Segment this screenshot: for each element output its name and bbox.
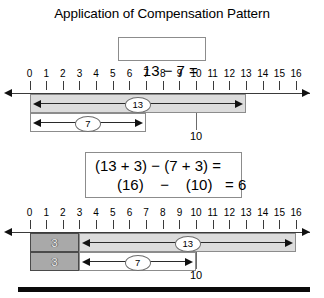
tick-label: 3 — [70, 207, 88, 218]
tick-mark — [96, 81, 97, 90]
tick-label: 14 — [254, 68, 272, 79]
block-value-label: 3 — [31, 253, 79, 270]
tick-mark — [129, 220, 130, 229]
tick-label: 9 — [170, 207, 188, 218]
tick-label: 8 — [154, 207, 172, 218]
tick-mark — [30, 81, 31, 90]
span-value-label: 13 — [175, 236, 201, 252]
tick-mark — [263, 220, 264, 229]
arrow-head-right — [235, 100, 243, 108]
page-title: Application of Compensation Pattern — [0, 6, 324, 21]
tick-label: 2 — [54, 68, 72, 79]
span-value-label: 7 — [75, 116, 101, 132]
tick-mark — [279, 81, 280, 90]
axis-arrow-right-top — [302, 89, 310, 97]
tick-mark — [63, 220, 64, 229]
marker-line — [196, 252, 197, 269]
tick-mark — [30, 220, 31, 229]
arrow-head-left — [82, 258, 90, 266]
equation-box-top: 13 − 7 = — [118, 37, 206, 61]
tick-label: 7 — [137, 207, 155, 218]
tick-mark — [246, 81, 247, 90]
tick-label: 15 — [270, 68, 288, 79]
tick-mark — [246, 220, 247, 229]
span-arrow: 7 — [82, 257, 193, 266]
tick-label: 11 — [204, 68, 222, 79]
block-3: 3 — [30, 252, 80, 271]
equation-bottom-line1: (13 + 3) − (7 + 3) = — [86, 156, 241, 175]
span-arrow: 13 — [82, 238, 293, 247]
tick-mark — [229, 81, 230, 90]
span-arrow: 13 — [33, 99, 244, 108]
tick-label: 3 — [70, 68, 88, 79]
tick-mark — [63, 81, 64, 90]
tick-label: 6 — [120, 207, 138, 218]
tick-label: 16 — [287, 68, 305, 79]
equation-bottom-line2: (16) − (10) = 6 — [86, 175, 241, 194]
tick-label: 6 — [120, 68, 138, 79]
tick-label: 13 — [237, 68, 255, 79]
tick-label: 9 — [170, 68, 188, 79]
arrow-head-left — [33, 100, 41, 108]
block-value-label: 3 — [31, 234, 79, 251]
tick-mark — [196, 220, 197, 229]
tick-label: 12 — [220, 207, 238, 218]
arrow-head-left — [33, 119, 41, 127]
number-line-bottom: 012345678910111213141516 33 137 10 — [0, 207, 324, 287]
tick-mark — [263, 81, 264, 90]
tick-label: 1 — [37, 207, 55, 218]
tick-mark — [179, 81, 180, 90]
tick-mark — [79, 220, 80, 229]
arrow-head-right — [185, 258, 193, 266]
tick-mark — [213, 81, 214, 90]
tick-label: 16 — [287, 207, 305, 218]
axis-arrow-right-bottom — [302, 228, 310, 236]
span-value-label: 13 — [125, 97, 151, 113]
span-value-label: 7 — [125, 255, 151, 271]
tick-mark — [113, 81, 114, 90]
tick-mark — [46, 81, 47, 90]
worksheet-page: Application of Compensation Pattern 13 −… — [0, 0, 324, 298]
tick-mark — [163, 81, 164, 90]
tick-mark — [196, 81, 197, 90]
tick-label: 5 — [104, 68, 122, 79]
span-arrow: 7 — [33, 118, 144, 127]
tick-label: 2 — [54, 207, 72, 218]
tick-label: 15 — [270, 207, 288, 218]
arrow-head-right — [285, 239, 293, 247]
tick-label: 10 — [187, 207, 205, 218]
tick-label: 13 — [237, 207, 255, 218]
tick-label: 10 — [187, 68, 205, 79]
tick-mark — [296, 220, 297, 229]
tick-label: 1 — [37, 68, 55, 79]
tick-label: 8 — [154, 68, 172, 79]
tick-label: 11 — [204, 207, 222, 218]
tick-mark — [163, 220, 164, 229]
tick-mark — [46, 220, 47, 229]
marker-caption: 10 — [181, 130, 211, 142]
tick-mark — [79, 81, 80, 90]
axis-arrow-left-top — [4, 89, 12, 97]
tick-label: 5 — [104, 207, 122, 218]
tick-label: 0 — [21, 68, 39, 79]
tick-mark — [296, 81, 297, 90]
tick-mark — [179, 220, 180, 229]
tick-mark — [146, 81, 147, 90]
tick-label: 4 — [87, 207, 105, 218]
tick-mark — [213, 220, 214, 229]
tick-label: 4 — [87, 68, 105, 79]
tick-label: 7 — [137, 68, 155, 79]
bottom-rule — [18, 287, 310, 292]
arrow-head-right — [135, 119, 143, 127]
tick-label: 0 — [21, 207, 39, 218]
tick-label-row-bottom: 012345678910111213141516 — [0, 207, 324, 220]
tick-label: 14 — [254, 207, 272, 218]
tick-mark — [279, 220, 280, 229]
tick-mark — [129, 81, 130, 90]
number-line-top: 012345678910111213141516 137 10 — [0, 68, 324, 148]
tick-label: 12 — [220, 68, 238, 79]
tick-mark — [113, 220, 114, 229]
tick-label-row-top: 012345678910111213141516 — [0, 68, 324, 81]
marker-line — [196, 113, 197, 130]
arrow-head-left — [82, 239, 90, 247]
